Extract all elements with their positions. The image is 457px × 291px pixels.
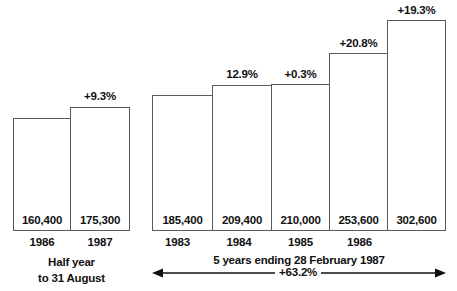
bar-1987-five-year	[387, 20, 446, 231]
bar-1985-five-year	[271, 84, 330, 231]
year-label-1987-half-year: 1987	[70, 236, 130, 248]
bar-value-1986-half-year: 160,400	[13, 214, 71, 226]
bar-pct-1984-five-year: 12.9%	[212, 68, 272, 80]
bar-1986-five-year	[329, 53, 388, 231]
bar-value-1984-five-year: 209,400	[212, 214, 272, 226]
year-label-1985-five-year: 1985	[271, 236, 330, 248]
year-label-1984-five-year: 1984	[209, 236, 269, 248]
bar-pct-1987-half-year: +9.3%	[70, 90, 130, 102]
bar-value-1987-half-year: 175,300	[70, 214, 130, 226]
year-label-1986-half-year: 1986	[13, 236, 71, 248]
year-label-1986-five-year: 1986	[330, 236, 389, 248]
five-year-caption: 5 years ending 28 February 1987	[152, 254, 446, 266]
bar-value-1985-five-year: 210,000	[271, 214, 330, 226]
year-label-1983-five-year: 1983	[147, 236, 208, 248]
bar-1984-five-year	[212, 85, 272, 231]
bar-value-1987-five-year: 302,600	[387, 214, 446, 226]
bar-chart: +9.3% 160,400 175,300 1986 1987 Half yea…	[0, 0, 457, 291]
bar-pct-1986-five-year: +20.8%	[329, 37, 388, 49]
bar-value-1983-five-year: 185,400	[152, 214, 213, 226]
bar-1987-half-year	[70, 107, 130, 231]
bar-1983-five-year	[152, 95, 213, 231]
bar-value-1986-five-year: 253,600	[329, 214, 388, 226]
total-change-label: +63.2%	[275, 266, 321, 278]
half-year-caption-line2: to 31 August	[4, 272, 139, 284]
bar-pct-1987-five-year: +19.3%	[387, 4, 446, 16]
bar-pct-1985-five-year: +0.3%	[271, 68, 330, 80]
half-year-caption-line1: Half year	[4, 256, 139, 268]
